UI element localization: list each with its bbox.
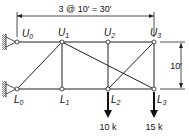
arrow-down-icon bbox=[150, 110, 158, 118]
node-labels: U0 U1 U2 U3 L0 L1 L2 L3 bbox=[14, 27, 167, 106]
pin-support-upper bbox=[2, 34, 16, 50]
span-dimension: 3 @ 10′ = 30′ bbox=[17, 4, 154, 37]
label-U2: U2 bbox=[104, 27, 115, 39]
label-L3: L3 bbox=[157, 94, 167, 106]
joints bbox=[15, 40, 156, 91]
height-dimension-label: 10′ bbox=[170, 61, 182, 71]
load-label-10k: 10 k bbox=[99, 122, 117, 132]
load-label-15k: 15 k bbox=[145, 122, 163, 132]
height-dimension: 10′ bbox=[160, 42, 185, 89]
member-L0U1 bbox=[17, 42, 62, 89]
label-L1: L1 bbox=[60, 94, 70, 106]
label-L2: L2 bbox=[111, 94, 121, 106]
member-L2U3 bbox=[108, 42, 154, 89]
truss-members bbox=[17, 42, 154, 89]
truss-diagram: 3 @ 10′ = 30′ 10′ bbox=[0, 0, 189, 139]
arrow-down-icon bbox=[104, 110, 112, 118]
span-dimension-label: 3 @ 10′ = 30′ bbox=[59, 4, 112, 14]
label-U0: U0 bbox=[22, 28, 33, 40]
label-U1: U1 bbox=[58, 27, 69, 39]
label-L0: L0 bbox=[14, 94, 24, 106]
label-U3: U3 bbox=[150, 27, 161, 39]
